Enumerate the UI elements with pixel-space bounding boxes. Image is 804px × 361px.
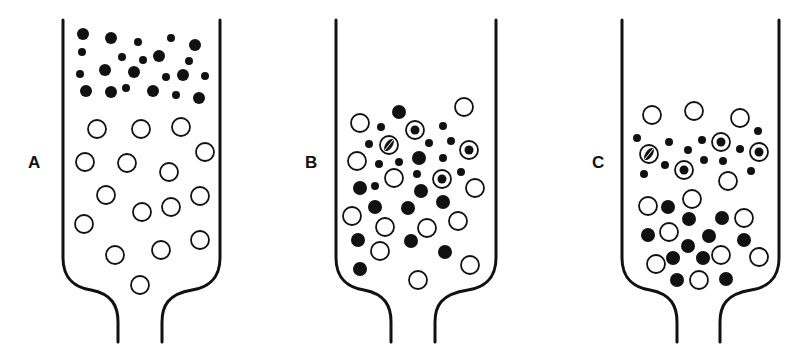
small-dark-particle: [684, 146, 692, 154]
open-bead: [690, 271, 708, 289]
small-dark-particle: [395, 158, 403, 166]
open-bead: [131, 276, 149, 294]
small-dark-particle: [118, 53, 126, 61]
small-dark-particle: [185, 57, 193, 65]
small-dark-particle: [633, 134, 641, 142]
small-dark-particle: [698, 136, 706, 144]
open-bead: [132, 120, 150, 138]
open-bead: [735, 209, 753, 227]
small-dark-particle: [139, 56, 147, 64]
small-dark-particle: [377, 123, 385, 131]
open-bead: [455, 98, 473, 116]
vessel-wall-left: [336, 20, 391, 342]
large-dark-particle: [666, 251, 680, 265]
large-dark-particle: [80, 85, 92, 97]
large-dark-particle: [177, 69, 189, 81]
bead-with-particle: [460, 141, 478, 159]
small-dark-particle: [447, 137, 455, 145]
small-dark-particle: [134, 38, 142, 46]
large-dark-particle: [438, 245, 452, 259]
open-bead: [371, 242, 389, 260]
panel-label-c: C: [592, 153, 604, 173]
figure-canvas: [0, 0, 804, 361]
large-dark-particle: [99, 64, 111, 76]
small-dark-particle: [201, 72, 209, 80]
small-dark-particle: [375, 160, 383, 168]
large-dark-particle: [351, 233, 365, 247]
bead-with-particle: [406, 121, 424, 139]
small-dark-particle: [76, 70, 84, 78]
open-bead: [750, 248, 768, 266]
open-bead: [449, 212, 467, 230]
open-bead: [660, 223, 678, 241]
large-dark-particle: [105, 86, 117, 98]
small-dark-particle: [413, 170, 421, 178]
small-dark-particle: [747, 167, 755, 175]
open-bead: [160, 163, 178, 181]
open-bead: [191, 187, 209, 205]
small-dark-particle: [736, 145, 744, 153]
open-bead: [418, 219, 436, 237]
large-dark-particle: [368, 200, 382, 214]
open-bead: [683, 190, 701, 208]
large-dark-particle: [128, 66, 140, 78]
open-bead: [719, 172, 737, 190]
open-bead: [647, 255, 665, 273]
small-dark-particle: [640, 170, 648, 178]
open-bead: [196, 143, 214, 161]
separation-figure: A B C: [0, 0, 804, 361]
small-dark-particle: [439, 122, 447, 130]
open-bead: [348, 152, 366, 170]
open-bead: [75, 215, 93, 233]
large-dark-particle: [412, 151, 426, 165]
panel-label-a: A: [28, 153, 40, 173]
small-dark-particle: [700, 156, 708, 164]
open-bead: [97, 186, 115, 204]
bead-with-particle: [750, 143, 768, 161]
panel-label-b: B: [305, 153, 317, 173]
open-bead: [461, 256, 479, 274]
open-bead: [712, 246, 730, 264]
large-dark-particle: [353, 181, 367, 195]
small-dark-particle: [122, 84, 130, 92]
open-bead: [731, 109, 749, 127]
vessel-panel-a: [63, 20, 220, 342]
small-dark-particle: [665, 138, 673, 146]
large-dark-particle: [719, 272, 733, 286]
large-dark-particle: [414, 184, 428, 198]
bead-with-particle: [675, 161, 693, 179]
small-dark-particle: [425, 139, 433, 147]
open-bead: [162, 198, 180, 216]
small-dark-particle: [457, 168, 465, 176]
large-dark-particle: [147, 85, 159, 97]
large-dark-particle: [401, 201, 415, 215]
vessel-panel-c: [622, 20, 779, 342]
small-dark-particle: [719, 157, 727, 165]
open-bead: [643, 106, 661, 124]
large-dark-particle: [682, 212, 696, 226]
large-dark-particle: [681, 239, 695, 253]
small-dark-particle: [167, 34, 175, 42]
large-dark-particle: [77, 28, 89, 40]
open-bead: [106, 246, 124, 264]
small-dark-particle: [172, 91, 180, 99]
open-bead: [409, 271, 427, 289]
open-bead: [172, 118, 190, 136]
large-dark-particle: [696, 251, 710, 265]
open-bead: [343, 207, 361, 225]
large-dark-particle: [702, 229, 716, 243]
hatched-bead: [640, 145, 658, 163]
large-dark-particle: [737, 233, 751, 247]
open-bead: [76, 153, 94, 171]
open-bead: [385, 169, 403, 187]
small-dark-particle: [754, 127, 762, 135]
vessel-wall-left: [622, 20, 677, 342]
bead-with-particle: [712, 133, 730, 151]
vessel-panel-b: [336, 20, 496, 342]
open-bead: [88, 120, 106, 138]
small-dark-particle: [78, 48, 86, 56]
open-bead: [152, 241, 170, 259]
large-dark-particle: [661, 200, 675, 214]
open-bead: [351, 114, 369, 132]
open-bead: [133, 203, 151, 221]
